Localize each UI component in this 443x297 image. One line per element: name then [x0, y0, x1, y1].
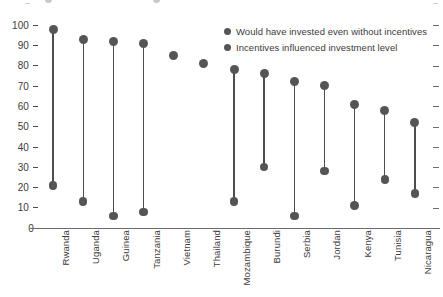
data-point-marker-incentives-influenced[interactable] — [109, 212, 118, 221]
cropped-tick — [433, 3, 438, 4]
data-point-marker-without-incentives[interactable] — [49, 25, 58, 34]
y-axis-tick: 90 — [18, 39, 38, 51]
x-axis-tick-label: Tanzania — [148, 230, 159, 269]
y-axis-tick-label: 70 — [18, 81, 29, 93]
y-axis-right-tick-mark — [433, 86, 439, 87]
y-axis-tick-label: 60 — [18, 101, 29, 113]
data-point-marker-incentives-influenced[interactable] — [411, 189, 420, 198]
x-axis-labels: RwandaUgandaGuineaTanzaniaVietnamThailan… — [38, 230, 430, 297]
data-point-marker-without-incentives[interactable] — [350, 100, 359, 109]
x-axis-tick-label: Jordan — [328, 230, 339, 260]
y-axis: 1009080706050403020100 — [0, 0, 38, 253]
data-point-marker-incentives-influenced[interactable] — [381, 175, 390, 184]
data-point-marker-incentives-influenced[interactable] — [139, 208, 148, 217]
y-axis-tick: 80 — [18, 60, 38, 72]
data-point-marker-without-incentives[interactable] — [169, 51, 178, 60]
x-axis-tick-label: Vietnam — [178, 230, 189, 265]
connector-line — [52, 29, 53, 185]
legend-item[interactable]: Incentives influenced investment level — [224, 40, 434, 54]
x-axis-tick-label: Uganda — [87, 230, 98, 264]
data-point-marker-incentives-influenced[interactable] — [290, 212, 299, 221]
x-axis-tick-label: Kenya — [359, 230, 370, 257]
y-axis-tick: 30 — [18, 161, 38, 173]
legend-item-label: Incentives influenced investment level — [236, 42, 397, 53]
lollipop-chart: 1009080706050403020100 RwandaUgandaGuine… — [0, 0, 443, 297]
data-point-marker-incentives-influenced[interactable] — [260, 163, 269, 172]
cropped-dot — [45, 0, 52, 3]
y-axis-tick: 100 — [12, 19, 38, 31]
data-point-marker-without-incentives[interactable] — [290, 77, 299, 86]
data-point-marker-without-incentives[interactable] — [260, 69, 269, 78]
x-axis-tick-label-text: Guinea — [120, 230, 131, 261]
y-axis-right-tick-mark — [433, 106, 439, 107]
connector-line — [414, 122, 415, 193]
x-axis-tick-label-text: Nicaragua — [422, 230, 433, 274]
legend-item[interactable]: Would have invested even without incenti… — [224, 24, 434, 38]
y-axis-tick-label: 80 — [18, 60, 29, 72]
data-point-marker-incentives-influenced[interactable] — [79, 197, 88, 206]
y-axis-tick: 20 — [18, 181, 38, 193]
y-axis-tick: 60 — [18, 100, 38, 112]
connector-line — [113, 41, 114, 216]
y-axis-tick-label: 10 — [18, 202, 29, 214]
connector-line — [324, 86, 325, 171]
x-axis-tick-label: Thailand — [208, 230, 219, 267]
data-point-marker-incentives-influenced[interactable] — [49, 181, 58, 190]
legend-marker-icon — [224, 28, 231, 35]
y-axis-right-tick-mark — [433, 66, 439, 67]
x-axis-tick-label: Guinea — [117, 230, 128, 261]
y-axis-tick: 10 — [18, 202, 38, 214]
connector-line — [294, 82, 295, 216]
y-axis-right-tick-mark — [433, 167, 439, 168]
y-axis-tick-label: 50 — [18, 121, 29, 133]
data-point-marker-without-incentives[interactable] — [320, 81, 329, 90]
x-axis-line — [30, 228, 440, 229]
chart-legend: Would have invested even without incenti… — [224, 24, 434, 56]
cropped-top-row — [0, 0, 443, 10]
y-axis-tick: 70 — [18, 80, 38, 92]
x-axis-tick-label: Rwanda — [57, 230, 68, 265]
connector-line — [143, 43, 144, 211]
x-axis-tick-label-text: Rwanda — [60, 230, 71, 265]
data-point-marker-without-incentives[interactable] — [109, 37, 118, 46]
y-axis-tick-label: 30 — [18, 162, 29, 174]
connector-line — [83, 39, 84, 201]
y-axis-tick-label: 90 — [18, 40, 29, 52]
x-axis-tick-label-text: Kenya — [362, 230, 373, 257]
y-axis-right-tick-mark — [433, 187, 439, 188]
x-axis-tick-label-text: Tunisia — [392, 230, 403, 261]
x-axis-tick-label-text: Tanzania — [151, 230, 162, 269]
data-point-marker-without-incentives[interactable] — [79, 35, 88, 44]
y-axis-tick-label: 100 — [12, 20, 29, 32]
x-axis-tick-label: Tunisia — [389, 230, 400, 261]
y-axis-tick: 50 — [18, 121, 38, 133]
y-axis-right-tick-mark — [433, 127, 439, 128]
data-point-marker-without-incentives[interactable] — [410, 118, 419, 127]
legend-item-label: Would have invested even without incenti… — [236, 26, 427, 37]
x-axis-tick-label-text: Uganda — [90, 230, 101, 264]
data-point-marker-without-incentives[interactable] — [380, 106, 389, 115]
x-axis-tick-label-text: Thailand — [211, 230, 222, 267]
data-point-marker-without-incentives[interactable] — [199, 59, 208, 68]
x-axis-tick-label-text: Serbia — [301, 230, 312, 258]
x-axis-tick-label-text: Mozambique — [241, 230, 252, 285]
x-axis-tick-label: Mozambique — [238, 230, 249, 285]
connector-line — [384, 110, 385, 179]
x-axis-tick-label-text: Vietnam — [181, 230, 192, 265]
y-axis-right-tick-mark — [433, 147, 439, 148]
data-point-marker-incentives-influenced[interactable] — [350, 201, 359, 210]
x-axis-tick-label: Serbia — [298, 230, 309, 258]
x-axis-tick-label-text: Burundi — [271, 230, 282, 263]
connector-line — [354, 104, 355, 206]
x-axis-tick-label: Nicaragua — [419, 230, 430, 274]
x-axis-tick-label: Burundi — [268, 230, 279, 263]
y-axis-tick: 40 — [18, 141, 38, 153]
y-axis-right-tick-mark — [433, 208, 439, 209]
legend-marker-icon — [224, 44, 231, 51]
connector-line — [263, 74, 264, 167]
data-point-marker-incentives-influenced[interactable] — [230, 197, 239, 206]
y-axis-tick-label: 20 — [18, 182, 29, 194]
data-point-marker-incentives-influenced[interactable] — [320, 167, 329, 176]
data-point-marker-without-incentives[interactable] — [230, 65, 239, 74]
data-point-marker-without-incentives[interactable] — [139, 39, 148, 48]
